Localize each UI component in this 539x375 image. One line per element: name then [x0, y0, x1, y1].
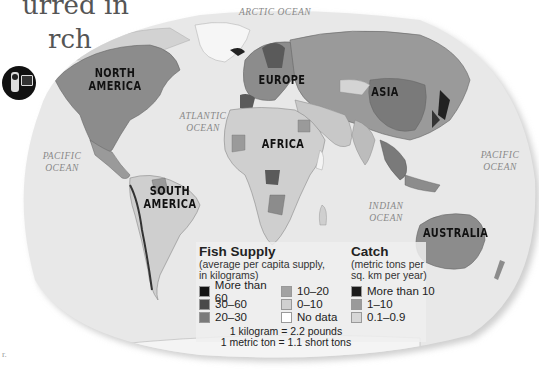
- label-south-america: SOUTH AMERICA: [140, 185, 200, 211]
- legend-col-1: More than 60 30–60 20–30: [199, 285, 281, 324]
- legend-item-label: 0–10: [297, 298, 323, 311]
- swatch: [281, 299, 292, 310]
- swatch: [351, 299, 362, 310]
- label-asia: ASIA: [368, 86, 402, 99]
- legend-item: 10–20: [281, 285, 337, 298]
- swatch: [199, 286, 210, 297]
- label-line: ATLANTIC: [168, 110, 238, 122]
- label-line: PACIFIC: [470, 149, 530, 161]
- label-line: AMERICA: [85, 80, 145, 93]
- label-line: OCEAN: [168, 122, 238, 134]
- swatch: [281, 286, 292, 297]
- camera-lens: [12, 74, 18, 80]
- legend-item: 0.1–0.9: [351, 311, 461, 324]
- legend-item-label: 0.1–0.9: [367, 311, 405, 324]
- legend-item: 1–10: [351, 298, 461, 311]
- label-pacific-ocean-west: PACIFIC OCEAN: [32, 150, 92, 174]
- legend-item: More than 60: [199, 285, 281, 298]
- label-line: AMERICA: [140, 198, 200, 211]
- conversion-metric-ton: 1 metric ton = 1.1 short tons: [196, 337, 376, 348]
- legend-item-label: No data: [297, 311, 337, 324]
- label-pacific-ocean-east: PACIFIC OCEAN: [470, 149, 530, 173]
- label-europe: EUROPE: [255, 74, 309, 87]
- legend-item: More than 10: [351, 285, 461, 298]
- legend-catch: Catch (metric tons per sq. km per year) …: [351, 244, 461, 324]
- label-indian-ocean: INDIAN OCEAN: [356, 200, 416, 224]
- legend-item: No data: [281, 311, 337, 324]
- label-north-america: NORTH AMERICA: [85, 67, 145, 93]
- legend-item-label: 10–20: [297, 285, 329, 298]
- swatch: [281, 312, 292, 323]
- swatch: [199, 299, 210, 310]
- legend-catch-subtitle-2: sq. km per year): [351, 270, 461, 281]
- label-line: OCEAN: [356, 212, 416, 224]
- label-line: OCEAN: [32, 162, 92, 174]
- legend-item-label: More than 10: [367, 285, 435, 298]
- label-australia: AUSTRALIA: [423, 227, 481, 240]
- legend-item: 0–10: [281, 298, 337, 311]
- label-line: PACIFIC: [32, 150, 92, 162]
- swatch: [199, 312, 210, 323]
- legend-item: 20–30: [199, 311, 281, 324]
- legend-item-label: 1–10: [367, 298, 393, 311]
- video-camera-icon[interactable]: [2, 66, 36, 100]
- swatch: [351, 286, 362, 297]
- label-africa: AFRICA: [259, 138, 307, 151]
- legend-catch-title: Catch: [351, 244, 461, 259]
- legend-catch-items: More than 10 1–10 0.1–0.9: [351, 285, 461, 324]
- swatch: [351, 312, 362, 323]
- unit-conversions: 1 kilogram = 2.2 pounds 1 metric ton = 1…: [196, 326, 376, 348]
- label-line: OCEAN: [470, 161, 530, 173]
- legend-item-label: 30–60: [215, 298, 247, 311]
- legend-item-label: 20–30: [215, 311, 247, 324]
- label-arctic-ocean: ARCTIC OCEAN: [220, 6, 330, 18]
- camera-screen: [21, 75, 33, 86]
- label-line: INDIAN: [356, 200, 416, 212]
- legend-col-2: 10–20 0–10 No data: [281, 285, 337, 324]
- label-atlantic-ocean: ATLANTIC OCEAN: [168, 110, 238, 134]
